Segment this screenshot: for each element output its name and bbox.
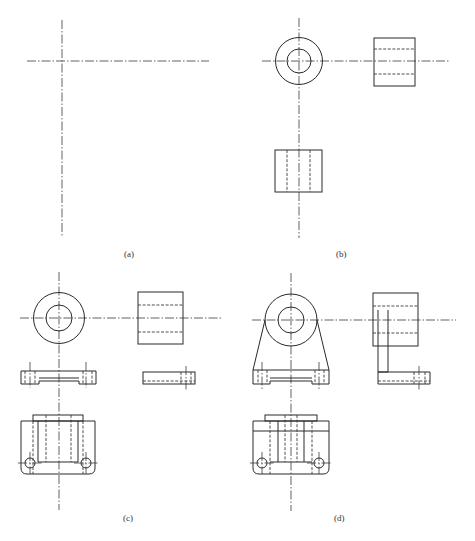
base-plate-side-view [143, 372, 195, 384]
panel-label-b: (b) [336, 249, 347, 259]
cylinder-front-view [275, 150, 322, 192]
panel-c: (c) [18, 272, 221, 523]
boss-side-view [373, 293, 418, 346]
support-rib-left [253, 320, 265, 370]
panel-a: (a) [27, 20, 209, 259]
plan-view-outline [21, 421, 95, 474]
panel-b: (b) [262, 18, 450, 259]
cylinder-side-view [374, 38, 415, 86]
panel-label-a: (a) [124, 249, 134, 259]
orthographic-drawing-figure: (a) (b) [0, 0, 475, 541]
base-plate-side-view [378, 372, 430, 384]
plan-view-boss [33, 415, 83, 421]
panel-label-d: (d) [334, 513, 345, 523]
panel-d: (d) [250, 273, 456, 523]
panel-label-c: (c) [123, 513, 133, 523]
